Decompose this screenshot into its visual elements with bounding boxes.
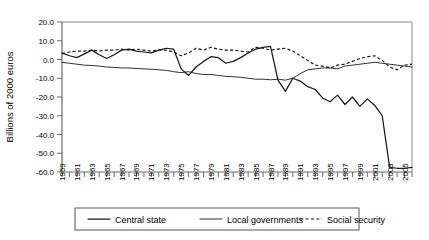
x-tick-label: 1995 [326, 163, 335, 181]
x-tick-label: 1991 [296, 163, 305, 181]
x-tick-label: 1999 [356, 163, 365, 181]
chart-legend: Central stateLocal governmentsSocial sec… [75, 208, 386, 230]
x-tick-label: 1975 [177, 163, 186, 181]
x-tick-label: 2005 [401, 163, 410, 181]
x-tick-label: 1983 [237, 163, 246, 181]
plot-frame [62, 22, 412, 172]
legend-label-social-security: Social security [327, 215, 386, 225]
x-tick-label: 2003 [386, 163, 395, 181]
x-tick-label: 1973 [162, 163, 171, 181]
y-tick-label: -20.0 [36, 93, 55, 102]
legend-label-central-state: Central state [115, 215, 166, 225]
x-tick-label: 1959 [58, 163, 67, 181]
y-tick-label: 20.0 [38, 18, 54, 27]
x-tick-label: 1977 [192, 163, 201, 181]
x-tick-label: 1971 [147, 163, 156, 181]
x-tick-label: 1969 [132, 163, 141, 181]
series-line-social-security [62, 47, 412, 69]
x-tick-label: 1985 [252, 163, 261, 181]
chart-figure: Billions of 2000 euros 20.010.00.0-10.0-… [0, 0, 429, 240]
y-tick-label: -40.0 [36, 131, 55, 140]
y-tick-label: 0.0 [43, 56, 55, 65]
y-tick-label: -10.0 [36, 74, 55, 83]
x-tick-label: 1979 [207, 163, 216, 181]
legend-label-local-governments: Local governments [227, 215, 304, 225]
y-axis-title: Billions of 2000 euros [4, 51, 15, 142]
x-tick-label: 1981 [222, 163, 231, 181]
x-tick-label: 1993 [311, 163, 320, 181]
x-tick-label: 1997 [341, 163, 350, 181]
data-series-group [62, 46, 412, 168]
x-tick-label: 1961 [73, 163, 82, 181]
x-tick-label: 1965 [103, 163, 112, 181]
x-tick-label: 1967 [118, 163, 127, 181]
y-tick-label: 10.0 [38, 37, 54, 46]
x-tick-label: 1989 [281, 163, 290, 181]
y-axis: 20.010.00.0-10.0-20.0-30.0-40.0-50.0-60.… [36, 18, 62, 177]
x-tick-label: 1987 [267, 163, 276, 181]
y-tick-label: -30.0 [36, 112, 55, 121]
x-tick-label: 2001 [371, 163, 380, 181]
series-line-local-governments [62, 62, 412, 80]
line-chart-svg: Billions of 2000 euros 20.010.00.0-10.0-… [0, 0, 429, 240]
x-tick-label: 1963 [88, 163, 97, 181]
y-tick-label: -50.0 [36, 149, 55, 158]
y-tick-label: -60.0 [36, 168, 55, 177]
